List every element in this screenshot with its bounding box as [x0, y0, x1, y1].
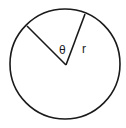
radius-label: r — [82, 42, 86, 56]
radius-line-right — [66, 14, 85, 65]
theta-label: θ — [59, 43, 66, 57]
circle-diagram: θ r — [0, 0, 126, 128]
